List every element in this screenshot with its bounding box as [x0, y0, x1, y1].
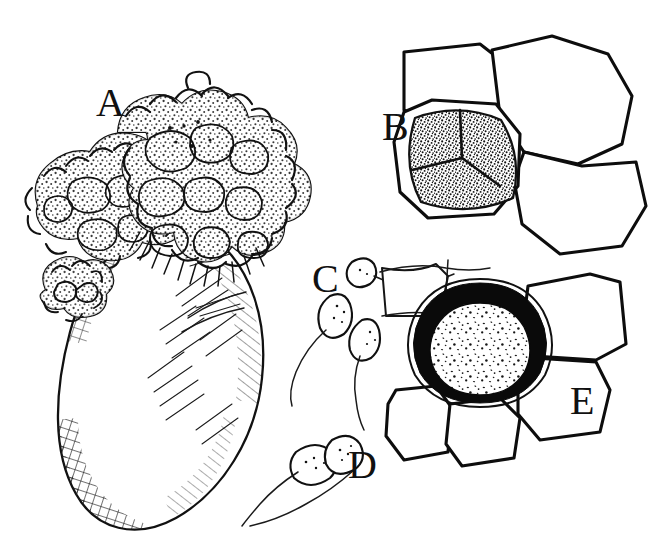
resting-spore-e-lumen	[430, 303, 530, 395]
panel-b-group	[390, 36, 646, 254]
panel-label-a: A	[96, 80, 125, 125]
panel-label-e: E	[570, 378, 594, 423]
panel-d-group	[242, 436, 363, 526]
figure-illustration: A B	[0, 0, 654, 555]
panel-label-d: D	[348, 442, 377, 487]
hypha-d	[242, 472, 298, 526]
panel-e-group	[380, 260, 626, 466]
panel-label-c: C	[312, 256, 339, 301]
hypha-c-3	[355, 356, 364, 430]
panel-a-group	[25, 72, 310, 540]
host-cell-e-lower-left	[386, 386, 452, 460]
host-cell-b-lower-right	[514, 152, 646, 254]
host-cell-e-lower-center	[446, 398, 520, 466]
host-cell-wall-e-vertical	[446, 260, 448, 292]
conidium-c-1	[347, 258, 377, 287]
panel-label-b: B	[382, 104, 409, 149]
illustration-canvas: A B	[0, 0, 654, 555]
hypha-c-2	[291, 330, 326, 406]
